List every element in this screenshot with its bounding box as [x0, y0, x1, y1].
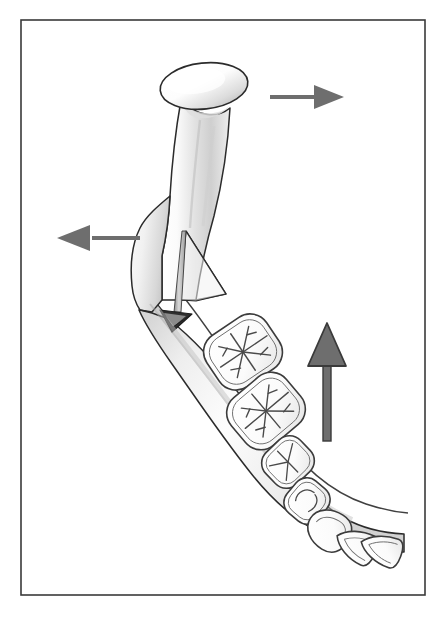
- arrow-right: [270, 85, 344, 109]
- mandibular-condyle: [158, 59, 250, 114]
- figure-root: Sagittal split ramus osteotomy of the ma…: [0, 0, 447, 622]
- arrow-up: [308, 323, 346, 441]
- mandible-illustration: [0, 0, 447, 622]
- arrow-left: [57, 225, 140, 251]
